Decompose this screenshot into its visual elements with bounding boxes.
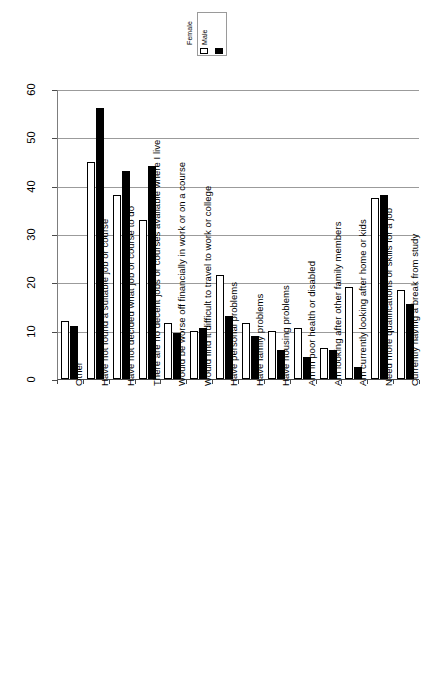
legend-label-female: Female (185, 5, 194, 45)
x-category-label: Need more qualifications or skills for a… (384, 208, 394, 386)
x-category-label: Currently having a break from study (410, 234, 420, 386)
x-tick-mark (57, 380, 58, 384)
x-tick-mark (367, 380, 368, 384)
y-tick-label: 20 (26, 270, 37, 296)
bar-female (397, 290, 405, 379)
bar-female (190, 331, 198, 379)
legend-entry-male: Male (213, 13, 228, 57)
y-tick-label: 0 (26, 367, 37, 393)
legend-label-male: Male (200, 5, 209, 45)
bar-female (242, 323, 250, 379)
x-tick-mark (83, 380, 84, 384)
bar-female (164, 323, 172, 379)
bar-female (371, 198, 379, 379)
y-tick-label: 40 (26, 173, 37, 199)
bar-female (268, 331, 276, 379)
y-tick-label: 30 (26, 222, 37, 248)
x-tick-mark (238, 380, 239, 384)
y-tick-label: 60 (26, 77, 37, 103)
x-tick-mark (341, 380, 342, 384)
x-category-label: Would be worse off financially in work o… (177, 162, 187, 386)
x-tick-mark (393, 380, 394, 384)
x-tick-mark (160, 380, 161, 384)
x-category-label: Have not found a suitable job or course (100, 219, 110, 386)
legend-swatch-female-icon (200, 48, 208, 54)
x-tick-mark (419, 380, 420, 384)
x-category-label: Have personal problems (229, 282, 239, 386)
x-tick-mark (290, 380, 291, 384)
bar-group (58, 89, 84, 379)
x-tick-mark (316, 380, 317, 384)
bar-female (320, 348, 328, 379)
x-category-label: Am currently looking after home or kids (358, 219, 368, 386)
x-tick-mark (186, 380, 187, 384)
y-tick-label: 10 (26, 318, 37, 344)
x-category-label: Am looking after other family members (333, 222, 343, 386)
bar-female (294, 328, 302, 379)
bar-chart-figure: Female Male 0102030405060 OtherHave not … (0, 0, 429, 690)
x-tick-mark (135, 380, 136, 384)
x-category-label: Have not decided what job or course to d… (126, 206, 136, 386)
x-category-label: Am in poor health or disabled (307, 261, 317, 386)
bar-female (61, 321, 69, 379)
bar-female (216, 275, 224, 379)
chart-legend: Female Male (197, 12, 227, 56)
x-category-label: Have housing problems (281, 285, 291, 386)
bar-female (139, 220, 147, 380)
x-category-label: Have family problems (255, 294, 265, 386)
x-category-label: There are no decent jobs or courses avai… (152, 140, 162, 386)
legend-swatch-male-icon (215, 48, 223, 54)
x-tick-mark (109, 380, 110, 384)
x-category-label: Would find it difficult to travel to wor… (203, 186, 213, 386)
bar-female (345, 287, 353, 379)
x-tick-mark (264, 380, 265, 384)
bar-female (113, 195, 121, 379)
bar-female (87, 162, 95, 380)
x-tick-mark (212, 380, 213, 384)
y-tick-label: 50 (26, 125, 37, 151)
